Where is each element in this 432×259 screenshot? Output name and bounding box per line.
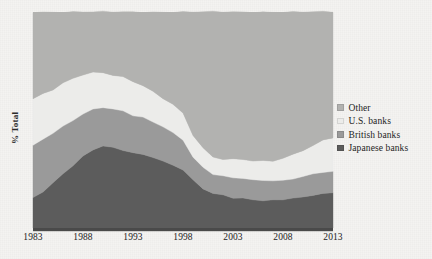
legend-swatch-icon xyxy=(337,104,344,111)
legend-item-label: British banks xyxy=(349,130,401,140)
chart-figure: % Total 1983198819931998200320082013 Oth… xyxy=(0,0,432,259)
legend-item[interactable]: British banks xyxy=(337,128,431,141)
x-tick-label: 2008 xyxy=(273,232,292,242)
x-tick-label: 1993 xyxy=(123,232,142,242)
y-axis-title: % Total xyxy=(8,96,22,160)
legend-item[interactable]: Other xyxy=(337,101,431,114)
legend-item-label: Japanese banks xyxy=(349,143,409,153)
x-tick-label: 1998 xyxy=(173,232,192,242)
x-tick-label: 2003 xyxy=(223,232,242,242)
legend-item-label: Other xyxy=(349,103,371,113)
x-axis-line xyxy=(33,228,333,231)
chart-legend: OtherU.S. banksBritish banksJapanese ban… xyxy=(337,101,431,155)
legend-item[interactable]: Japanese banks xyxy=(337,142,431,155)
x-tick-label: 2013 xyxy=(323,232,342,242)
legend-swatch-icon xyxy=(337,118,344,125)
legend-swatch-icon xyxy=(337,145,344,152)
legend-item[interactable]: U.S. banks xyxy=(337,115,431,128)
x-tick-label: 1983 xyxy=(23,232,42,242)
legend-item-label: U.S. banks xyxy=(349,116,391,126)
legend-swatch-icon xyxy=(337,131,344,138)
x-tick-label: 1988 xyxy=(73,232,92,242)
x-axis-tick-labels: 1983198819931998200320082013 xyxy=(33,232,333,248)
